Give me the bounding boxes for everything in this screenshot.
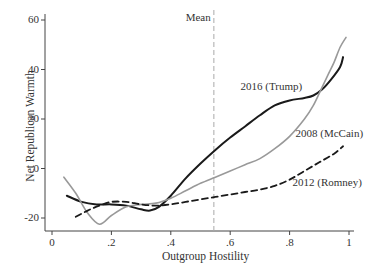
x-tick-label: .8 — [280, 236, 300, 248]
y-tick-label: -20 — [11, 211, 39, 223]
x-axis-label: Outgroup Hostility — [162, 250, 249, 262]
x-tick-label: 1 — [339, 236, 359, 248]
annotation-label: 2012 (Romney) — [293, 176, 362, 188]
x-tick-label: .4 — [161, 236, 181, 248]
axes — [41, 14, 354, 235]
x-tick-label: 0 — [42, 236, 62, 248]
annotation-label: 2016 (Trump) — [241, 80, 303, 92]
y-axis-label: Net Republican Warmth — [24, 56, 36, 196]
y-tick-label: 60 — [11, 13, 39, 25]
annotation-label: 2008 (McCain) — [296, 127, 364, 139]
x-tick-label: .6 — [220, 236, 240, 248]
x-tick-label: .2 — [101, 236, 121, 248]
annotation-label: Mean — [186, 11, 211, 23]
